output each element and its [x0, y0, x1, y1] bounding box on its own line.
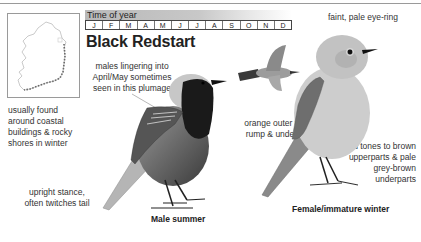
distribution-map — [7, 13, 80, 98]
note-line: upright stance, — [16, 187, 98, 198]
eye-ring-note: faint, pale eye-ring — [328, 12, 398, 23]
month-apr: A — [137, 21, 154, 29]
month-dec: D — [274, 21, 291, 29]
month-nov: N — [257, 21, 274, 29]
male-caption: Male summer — [151, 214, 205, 224]
month-jun: J — [171, 21, 188, 29]
month-jul: J — [188, 21, 205, 29]
ireland-distribution-map-icon — [8, 14, 79, 97]
note-line: shores in winter — [8, 138, 72, 149]
time-of-year-label: Time of year — [85, 10, 292, 20]
female-winter-bird-illustration — [258, 33, 388, 198]
male-summer-bird-illustration — [95, 68, 235, 213]
behaviour-note: upright stance, often twitches tail — [16, 187, 98, 209]
note-line: buildings & rocky — [8, 127, 72, 138]
note-line: usually found — [8, 105, 72, 116]
female-caption: Female/immature winter — [292, 204, 389, 214]
month-row: J F M A M J J A S O N D — [85, 20, 292, 30]
top-rule — [0, 3, 421, 4]
month-mar: M — [119, 21, 136, 29]
month-jan: J — [86, 21, 102, 29]
note-line: often twitches tail — [16, 198, 98, 209]
month-aug: A — [205, 21, 222, 29]
month-sep: S — [222, 21, 239, 29]
month-may: M — [154, 21, 171, 29]
note-line: around coastal — [8, 116, 72, 127]
month-feb: F — [102, 21, 119, 29]
species-title: Black Redstart — [86, 33, 195, 51]
habitat-note: usually found around coastal buildings &… — [8, 105, 72, 149]
month-oct: O — [240, 21, 257, 29]
time-of-year-bar: Time of year J F M A M J J A S O N D — [85, 10, 292, 30]
